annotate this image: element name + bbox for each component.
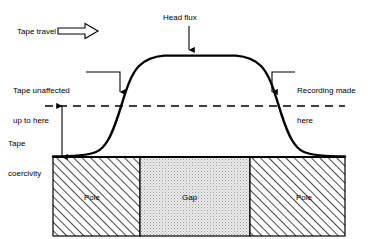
tape-travel-label: Tape travel bbox=[17, 27, 56, 37]
recording-made-leader-icon bbox=[272, 72, 295, 92]
gap-label: Gap bbox=[182, 193, 197, 202]
tape-coercivity-line-1: Tape bbox=[8, 139, 41, 149]
tape-unaffected-leader-icon bbox=[86, 72, 120, 92]
recording-made-line-1: Recording made bbox=[297, 86, 356, 96]
head-flux-label: Head flux bbox=[163, 13, 197, 23]
tape-unaffected-line-1: Tape unaffected bbox=[13, 86, 70, 96]
tape-coercivity-label: Tape coercivity bbox=[8, 119, 41, 199]
magnetic-head-flux-diagram: Tape travel Head flux Tape unaffected up… bbox=[0, 0, 377, 239]
pole-right-label: Pole bbox=[296, 193, 312, 202]
tape-travel-arrow-icon bbox=[58, 24, 98, 39]
pole-left-label: Pole bbox=[84, 193, 100, 202]
tape-coercivity-line-2: coercivity bbox=[8, 169, 41, 179]
recording-made-label: Recording made here bbox=[297, 66, 356, 146]
recording-made-line-2: here bbox=[297, 116, 356, 126]
